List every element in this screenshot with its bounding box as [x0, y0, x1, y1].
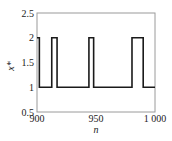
- chart: 0.511.522.5 9009501 000 n x*: [0, 0, 172, 141]
- x-tick-labels: 9009501 000: [30, 113, 167, 124]
- y-tick-label: 1: [29, 82, 34, 93]
- plot-frame: [37, 13, 155, 112]
- y-tick-label: 1.5: [22, 57, 35, 68]
- y-tick-label: 2: [29, 32, 34, 43]
- series-group: [37, 38, 155, 88]
- series-line: [37, 38, 155, 88]
- y-tick-labels: 0.511.522.5: [22, 8, 35, 118]
- y-tick-label: 2.5: [22, 8, 35, 19]
- x-tick-label: 950: [89, 113, 104, 124]
- x-axis-label: n: [94, 124, 99, 135]
- y-axis-label: x*: [5, 61, 16, 71]
- x-tick-label: 900: [30, 113, 45, 124]
- x-tick-label: 1 000: [144, 113, 167, 124]
